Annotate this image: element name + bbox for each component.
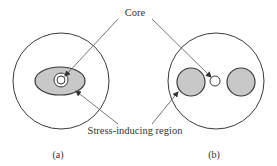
stress-leader-a xyxy=(76,91,118,124)
core-inner-a xyxy=(57,76,65,84)
fiber-diagram: Core Stress-inducing region (a) (b) xyxy=(0,0,277,166)
core-leader-b xyxy=(152,19,211,77)
panel-b xyxy=(168,33,264,129)
panel-a-label: (a) xyxy=(52,149,63,161)
stress-rod-right-b xyxy=(227,68,255,96)
stress-leader-b xyxy=(152,92,178,124)
stress-region-label: Stress-inducing region xyxy=(88,125,184,136)
stress-rod-left-b xyxy=(177,68,205,96)
core-label: Core xyxy=(125,7,146,18)
core-leader-a xyxy=(65,19,118,76)
panel-b-label: (b) xyxy=(208,149,220,161)
panel-a xyxy=(13,33,109,129)
core-b xyxy=(210,76,220,86)
